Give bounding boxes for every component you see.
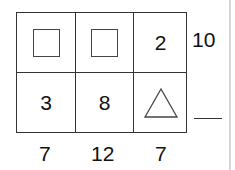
column-sum-3: 7	[155, 143, 167, 164]
cell-r2c1: 3	[17, 73, 75, 133]
cell-value: 2	[155, 31, 167, 55]
cell-value: 3	[40, 91, 52, 115]
cell-r2c3	[134, 73, 187, 133]
cell-r1c1	[17, 13, 75, 72]
square-icon	[91, 29, 118, 57]
triangle-icon	[143, 87, 179, 119]
puzzle-grid: 2 3 8	[16, 12, 187, 133]
cell-r1c3: 2	[134, 13, 187, 72]
cell-r2c2: 8	[76, 73, 133, 133]
cell-value: 8	[99, 91, 111, 115]
cell-r1c2	[76, 13, 133, 72]
column-sum-2: 12	[91, 143, 114, 164]
square-icon	[33, 29, 60, 57]
column-sum-1: 7	[39, 143, 51, 164]
panel-divider	[229, 0, 231, 170]
row-sum-1: 10	[192, 29, 215, 50]
row-sum-2-blank[interactable]	[194, 118, 222, 119]
